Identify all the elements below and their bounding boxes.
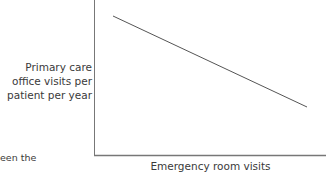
trend-line <box>113 16 307 107</box>
plot-area <box>0 0 326 177</box>
x-axis-label: Emergency room visits <box>95 160 326 172</box>
